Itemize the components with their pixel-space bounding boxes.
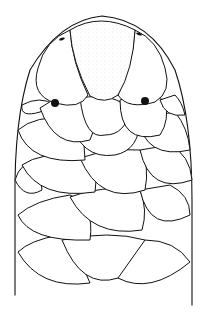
- scale-row-5: [18, 235, 190, 284]
- head-scales-drawing: [0, 0, 204, 322]
- eye-right-icon: [141, 97, 149, 105]
- scale-row-4: [18, 185, 190, 240]
- eye-left-icon: [51, 99, 59, 107]
- scale-illustration: [0, 0, 204, 322]
